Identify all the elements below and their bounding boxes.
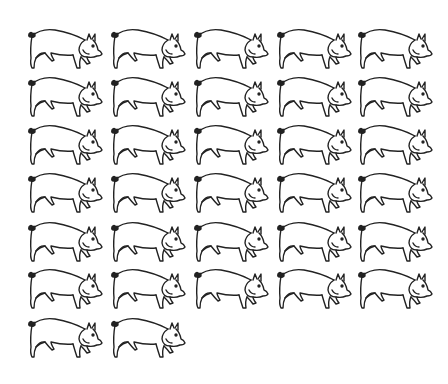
pig-icon [276,124,354,170]
pig-icon [110,172,188,218]
pig-icon [193,221,271,267]
pig-icon [193,28,271,74]
pig-icon [276,221,354,267]
pig-icon [110,28,188,74]
pig-icon [357,76,435,122]
pig-icon [193,172,271,218]
pig-icon [276,268,354,314]
pig-icon [110,221,188,267]
pig-icon [27,317,105,363]
pig-icon [110,124,188,170]
pig-icon [110,76,188,122]
pig-icon [27,221,105,267]
pig-icon [27,28,105,74]
pig-icon [27,76,105,122]
pig-icon [276,76,354,122]
pig-icon [193,268,271,314]
pig-icon [193,76,271,122]
pig-icon [27,172,105,218]
pig-icon [27,268,105,314]
pig-icon [276,28,354,74]
pig-icon [357,28,435,74]
pig-icon [193,124,271,170]
pig-icon [276,172,354,218]
pig-icon [357,124,435,170]
pig-icon [357,172,435,218]
pig-icon [110,268,188,314]
pig-icon [357,221,435,267]
pig-icon [110,317,188,363]
pig-icon [357,268,435,314]
pig-grid [0,0,448,384]
pig-icon [27,124,105,170]
